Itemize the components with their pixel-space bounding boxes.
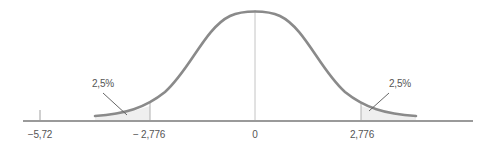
t-distribution-chart: [0, 0, 483, 146]
left-tail-percent-label: 2,5%: [92, 78, 114, 89]
tick-label-zero: 0: [252, 129, 257, 140]
right-tail-percent-label: 2,5%: [389, 78, 411, 89]
tick-label-neg-5-72: −5,72: [28, 129, 52, 140]
right-pct-pointer: [369, 93, 389, 111]
tick-label-neg-2-776: − 2,776: [133, 129, 165, 140]
left-pct-pointer: [103, 93, 127, 115]
tick-label-pos-2-776: 2,776: [350, 129, 374, 140]
